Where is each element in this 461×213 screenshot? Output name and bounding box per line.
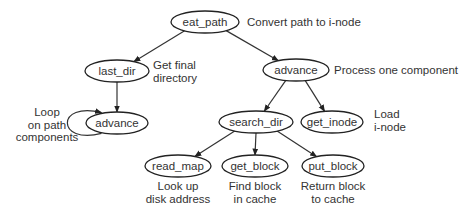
note-line: on path — [28, 119, 66, 131]
note-advance_loop: Loopon pathcomponents — [16, 106, 79, 143]
node-label: last_dir — [98, 65, 135, 77]
note-line: Load — [374, 108, 400, 120]
node-label: search_dir — [229, 116, 283, 128]
note-line: components — [16, 131, 79, 143]
node-label: get_block — [230, 160, 279, 172]
node-put_block: put_block — [302, 155, 364, 177]
node-get_block: get_block — [222, 155, 288, 177]
edge-advance_main-to-search_dir — [264, 80, 286, 111]
node-advance_loop: advance — [86, 112, 148, 134]
node-read_map: read_map — [145, 155, 211, 177]
note-line: Find block — [229, 180, 282, 192]
note-line: Convert path to i-node — [247, 16, 361, 28]
note-line: Look up — [158, 180, 199, 192]
note-put_block: Return blockto cache — [301, 180, 366, 205]
node-label: eat_path — [183, 16, 228, 28]
node-label: read_map — [152, 160, 204, 172]
edges — [67, 31, 324, 157]
notes: Convert path to i-nodeGet finaldirectory… — [16, 16, 459, 205]
edge-search_dir-to-read_map — [195, 131, 235, 157]
edge-eat_path-to-last_dir — [134, 31, 185, 62]
node-eat_path: eat_path — [171, 11, 239, 33]
note-line: to cache — [311, 193, 354, 205]
note-get_inode: Loadi-node — [374, 108, 406, 133]
note-line: Process one component — [334, 64, 459, 76]
note-line: Return block — [301, 180, 366, 192]
node-label: put_block — [308, 160, 357, 172]
node-last_dir: last_dir — [85, 60, 149, 82]
edge-search_dir-to-put_block — [277, 131, 317, 157]
node-label: advance — [95, 117, 138, 129]
note-line: in cache — [234, 193, 277, 205]
note-last_dir: Get finaldirectory — [153, 59, 197, 84]
edge-eat_path-to-advance_main — [226, 31, 278, 61]
node-get_inode: get_inode — [301, 111, 363, 133]
note-line: directory — [153, 72, 197, 84]
node-label: get_inode — [307, 116, 358, 128]
note-line: disk address — [146, 193, 211, 205]
node-label: advance — [274, 64, 317, 76]
note-line: Get final — [153, 59, 196, 71]
call-graph-diagram: eat_pathlast_diradvanceadvancesearch_dir… — [0, 0, 461, 213]
note-eat_path: Convert path to i-node — [247, 16, 361, 28]
note-line: i-node — [374, 121, 406, 133]
note-advance_main: Process one component — [334, 64, 459, 76]
edge-advance_main-to-get_inode — [305, 81, 324, 112]
nodes: eat_pathlast_diradvanceadvancesearch_dir… — [85, 11, 364, 177]
node-search_dir: search_dir — [219, 111, 293, 133]
node-advance_main: advance — [263, 59, 329, 81]
note-get_block: Find blockin cache — [229, 180, 282, 205]
edge-search_dir-to-get_block — [255, 133, 256, 155]
note-line: Loop — [34, 106, 60, 118]
note-read_map: Look updisk address — [146, 180, 211, 205]
